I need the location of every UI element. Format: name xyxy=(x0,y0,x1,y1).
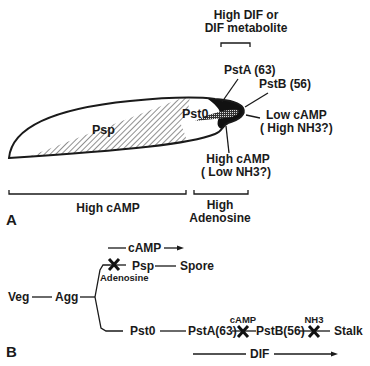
pstb-label: PstB (56) xyxy=(259,77,311,91)
high-camp-bracket-label: High cAMP xyxy=(76,201,139,215)
panel-b-label: B xyxy=(6,343,17,360)
low-camp-line1: Low cAMP xyxy=(266,108,327,122)
low-camp-line2: ( High NH3?) xyxy=(260,121,333,135)
node-pstb: PstB(56) xyxy=(256,324,305,338)
camp-arrow-head xyxy=(177,246,184,251)
node-stalk: Stalk xyxy=(334,324,363,338)
lower-branch xyxy=(95,297,123,331)
dif-bracket xyxy=(221,43,250,47)
dif-arrow-head xyxy=(331,352,338,357)
camp-arrow-label: cAMP xyxy=(128,241,161,255)
panel-b: cAMP Veg Agg Adenosine Psp Spore Pst0 Ps… xyxy=(6,241,363,361)
node-psta: PstA(63) xyxy=(188,324,237,338)
nh3-inhibitor-label: NH3 xyxy=(304,314,323,325)
node-agg: Agg xyxy=(55,290,78,304)
node-spore: Spore xyxy=(180,259,214,273)
pst0-label: Pst0 xyxy=(182,107,208,121)
dif-annotation-line2: DIF metabolite xyxy=(205,21,288,35)
high-adenosine-line1: High xyxy=(207,198,234,212)
high-camp-line2: ( Low NH3?) xyxy=(201,165,271,179)
high-camp-line1: High cAMP xyxy=(206,152,269,166)
high-adenosine-line2: Adenosine xyxy=(189,211,251,225)
panel-a-label: A xyxy=(6,211,17,228)
diagram-canvas: High DIF or DIF metabolite Psp Pst0 PstA… xyxy=(0,0,370,366)
high-camp-bracket xyxy=(9,190,186,194)
dif-arrow-label: DIF xyxy=(250,347,269,361)
high-camp-pointer xyxy=(226,126,229,153)
psp-label: Psp xyxy=(92,123,115,137)
high-adenosine-bracket xyxy=(194,190,248,194)
panel-a: High DIF or DIF metabolite Psp Pst0 PstA… xyxy=(0,8,333,228)
psta-label: PstA (63) xyxy=(224,63,276,77)
adenosine-inhibitor-label: Adenosine xyxy=(100,272,149,283)
pstb-pointer xyxy=(245,93,268,107)
dif-annotation-line1: High DIF or xyxy=(214,8,279,22)
node-veg: Veg xyxy=(8,290,29,304)
camp-inhibitor-label: cAMP xyxy=(230,314,257,325)
node-psp: Psp xyxy=(132,259,154,273)
psta-pointer xyxy=(222,79,238,102)
node-pst0: Pst0 xyxy=(130,324,156,338)
low-camp-pointer xyxy=(246,115,260,118)
